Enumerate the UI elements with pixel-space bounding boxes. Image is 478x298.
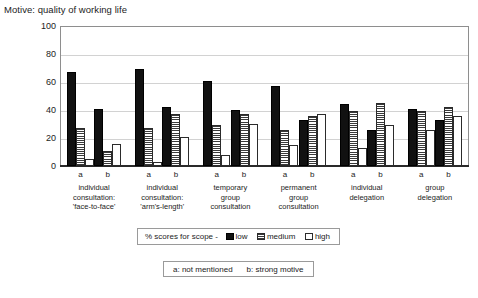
x-category-label: group delegation bbox=[396, 183, 474, 202]
legend-series: % scores for scope - low medium high bbox=[137, 228, 340, 245]
bar-low bbox=[231, 110, 240, 166]
y-axis-tick-label: 100 bbox=[2, 21, 56, 31]
legend-label-low: low bbox=[235, 232, 247, 241]
bar-group bbox=[196, 26, 264, 166]
y-axis-tick-label: 60 bbox=[2, 77, 56, 87]
bar-low bbox=[435, 120, 444, 166]
legend-swatch-medium-icon bbox=[257, 233, 265, 240]
bar-group bbox=[333, 26, 401, 166]
bar-low bbox=[408, 109, 417, 166]
legend-swatch-high-icon bbox=[305, 233, 313, 240]
bar-subgroup-b bbox=[162, 26, 189, 166]
bar-low bbox=[135, 69, 144, 166]
legend-label-high: high bbox=[315, 232, 330, 241]
bar-high bbox=[453, 116, 462, 166]
bar-subgroup-a bbox=[271, 26, 298, 166]
bar-high bbox=[180, 137, 189, 166]
chart-title: Motive: quality of working life bbox=[4, 4, 127, 15]
x-sublabel-a: a bbox=[419, 170, 423, 179]
legend-label-medium: medium bbox=[267, 232, 295, 241]
bar-group bbox=[128, 26, 196, 166]
x-sublabel-b: b bbox=[446, 170, 450, 179]
bar-medium bbox=[144, 128, 153, 166]
bar-low bbox=[162, 107, 171, 166]
legend-note-a: a: not mentioned bbox=[173, 265, 233, 274]
bar-subgroup-b bbox=[435, 26, 462, 166]
x-sublabel-b: b bbox=[378, 170, 382, 179]
bar-subgroup-b bbox=[94, 26, 121, 166]
bar-high bbox=[426, 130, 435, 166]
x-category-label: individual consultation: 'face-to-face' bbox=[55, 183, 133, 212]
x-sublabel-a: a bbox=[215, 170, 219, 179]
bar-low bbox=[340, 104, 349, 166]
bar-group bbox=[60, 26, 128, 166]
chart-container: Motive: quality of working life 02040608… bbox=[0, 0, 478, 298]
bar-low bbox=[367, 130, 376, 166]
legend-note-b: b: strong motive bbox=[247, 265, 304, 274]
legend-prefix-label: % scores for scope - bbox=[145, 232, 218, 241]
x-category-label: individual consultation: 'arm's-length' bbox=[123, 183, 201, 212]
bar-medium bbox=[212, 125, 221, 166]
bar-high bbox=[153, 162, 162, 166]
bar-medium bbox=[308, 116, 317, 166]
x-sublabel-b: b bbox=[174, 170, 178, 179]
bar-high bbox=[289, 145, 298, 166]
y-axis-tick-label: 80 bbox=[2, 49, 56, 59]
y-axis-tick-label: 20 bbox=[2, 133, 56, 143]
bar-high bbox=[112, 144, 121, 166]
x-sublabel-b: b bbox=[242, 170, 246, 179]
x-axis-category-labels: individual consultation: 'face-to-face'i… bbox=[60, 183, 469, 223]
legend-item-low: low bbox=[218, 232, 250, 241]
x-sublabel-b: b bbox=[105, 170, 109, 179]
bar-low bbox=[94, 109, 103, 166]
bar-medium bbox=[103, 151, 112, 166]
bar-subgroup-a bbox=[67, 26, 94, 166]
x-axis-sublabels: abababababab bbox=[60, 170, 469, 182]
bar-group bbox=[401, 26, 469, 166]
legend-item-high: high bbox=[297, 232, 332, 241]
x-category-label: temporary group consultation bbox=[191, 183, 269, 212]
bar-medium bbox=[417, 111, 426, 166]
bar-high bbox=[358, 148, 367, 166]
y-axis: 020406080100 bbox=[0, 26, 56, 166]
x-category-label: permanent group consultation bbox=[260, 183, 338, 212]
x-sublabel-a: a bbox=[351, 170, 355, 179]
x-sublabel-a: a bbox=[78, 170, 82, 179]
y-axis-tick-label: 0 bbox=[2, 161, 56, 171]
x-sublabel-a: a bbox=[283, 170, 287, 179]
bar-low bbox=[67, 72, 76, 166]
bar-medium bbox=[171, 114, 180, 166]
bar-group bbox=[265, 26, 333, 166]
bar-high bbox=[249, 124, 258, 166]
x-sublabel-b: b bbox=[310, 170, 314, 179]
bar-medium bbox=[76, 128, 85, 166]
bar-high bbox=[85, 159, 94, 166]
bar-medium bbox=[240, 114, 249, 166]
bar-subgroup-a bbox=[135, 26, 162, 166]
bar-medium bbox=[376, 103, 385, 166]
bar-medium bbox=[444, 107, 453, 166]
legend-item-medium: medium bbox=[249, 232, 297, 241]
bar-high bbox=[221, 155, 230, 166]
x-sublabel-a: a bbox=[146, 170, 150, 179]
bar-subgroup-b bbox=[231, 26, 258, 166]
legend-swatch-low-icon bbox=[226, 233, 234, 240]
bar-low bbox=[203, 81, 212, 166]
bar-low bbox=[299, 120, 308, 166]
bar-medium bbox=[280, 130, 289, 166]
x-category-label: individual delegation bbox=[328, 183, 406, 202]
bar-low bbox=[271, 86, 280, 166]
y-axis-tick-label: 40 bbox=[2, 105, 56, 115]
bar-subgroup-b bbox=[367, 26, 394, 166]
bar-high bbox=[317, 114, 326, 166]
bar-subgroup-a bbox=[340, 26, 367, 166]
legend-subgroup-key: a: not mentioned b: strong motive bbox=[163, 261, 314, 277]
bar-high bbox=[385, 125, 394, 166]
bar-groups bbox=[60, 26, 469, 166]
bar-subgroup-b bbox=[299, 26, 326, 166]
bar-medium bbox=[349, 111, 358, 166]
bar-subgroup-a bbox=[203, 26, 230, 166]
bar-subgroup-a bbox=[408, 26, 435, 166]
